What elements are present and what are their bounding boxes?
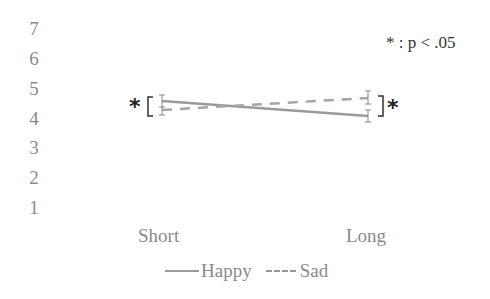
significance-note: * : p < .05 [386, 33, 456, 53]
line-chart: 7 6 5 4 3 2 1 * * * : p [0, 0, 490, 299]
dashed-line-icon [266, 270, 296, 272]
long-bracket [378, 96, 383, 116]
legend-item-sad: Sad [266, 260, 329, 282]
legend-label-sad: Sad [300, 260, 329, 282]
long-significance-marker: * [387, 97, 399, 119]
x-tick-short: Short [138, 226, 179, 246]
legend-label-happy: Happy [201, 260, 252, 282]
short-bracket [148, 97, 153, 116]
x-tick-long: Long [346, 226, 386, 246]
long-error-bars [365, 91, 371, 122]
happy-line [162, 101, 368, 116]
short-error-bars [159, 95, 165, 115]
legend: Happy Sad [165, 260, 342, 282]
short-significance-marker: * [129, 96, 141, 118]
legend-item-happy: Happy [165, 260, 252, 282]
solid-line-icon [165, 270, 199, 272]
